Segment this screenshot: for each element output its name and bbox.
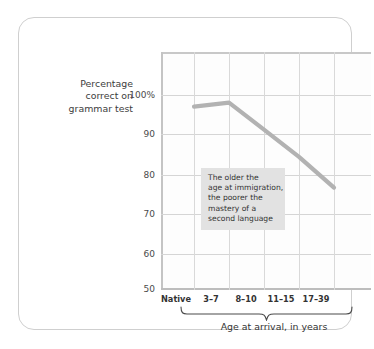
x-tick-label-native: Native: [161, 294, 191, 304]
annotation-line-1: The older the: [208, 173, 279, 183]
annotation-line-2: age at immigration,: [208, 183, 279, 193]
y-axis-title: Percentage correct on grammar test Perce…: [41, 78, 133, 115]
y-tick-label-50: 50: [125, 284, 155, 294]
y-tick-label-70: 70: [125, 209, 155, 219]
y-tick-label-80: 80: [125, 170, 155, 180]
annotation-textbox: The older the age at immigration, the po…: [201, 168, 285, 230]
x-tick-label-8-10: 8–10: [235, 294, 256, 304]
y-tick-label-90: 90: [125, 129, 155, 139]
y-tick-label-60: 60: [125, 249, 155, 259]
annotation-line-3: the poorer the: [208, 193, 279, 203]
x-tick-label-3-7: 3–7: [203, 294, 219, 304]
y-tick-label-100: 100%: [121, 90, 155, 100]
age-group-brace: [179, 306, 354, 321]
y-axis-title-line-a: Percentage: [41, 78, 133, 90]
annotation-line-4: mastery of a: [208, 204, 279, 214]
y-axis-title-line-c: grammar test: [41, 103, 133, 115]
y-axis-title-line-b: correct on: [41, 90, 133, 102]
figure-card: Percentage correct on grammar test Perce…: [18, 17, 352, 330]
x-tick-label-17-39: 17–39: [303, 294, 330, 304]
x-axis-title: Age at arrival, in years: [174, 321, 374, 332]
plot-area: The older the age at immigration, the po…: [161, 52, 371, 290]
annotation-line-5: second language: [208, 214, 279, 224]
x-tick-label-11-15: 11–15: [268, 294, 295, 304]
